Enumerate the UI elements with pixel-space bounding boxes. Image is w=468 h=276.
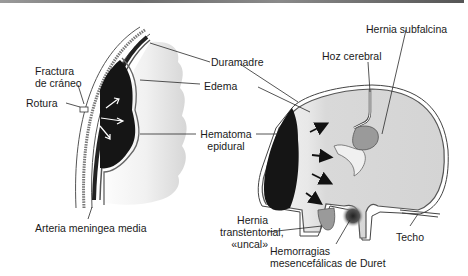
epidural-hematoma-coronal <box>264 108 299 211</box>
label-hemorragias-line1: Hemorragias <box>270 245 386 257</box>
label-hernia-transtentorial: Hernia transtentorial, «uncal» <box>220 214 268 250</box>
label-hematoma-line2: epidural <box>196 140 256 152</box>
label-hernia-trans-line2: transtentorial, <box>220 226 268 238</box>
duret-hemorrhage <box>342 205 364 227</box>
right-panel-coronal-brain <box>258 85 448 240</box>
label-hernia-trans-line3: «uncal» <box>220 238 268 250</box>
label-techo: Techo <box>396 231 424 243</box>
label-duramadre: Duramadre <box>211 56 264 68</box>
label-hematoma-line1: Hematoma <box>196 128 256 140</box>
skull-fracture-mark <box>80 107 88 112</box>
label-hernia-subfalcina: Hernia subfalcina <box>366 23 447 35</box>
label-fractura-line2: de cráneo <box>35 77 82 89</box>
label-fractura-de-craneo: Fractura de cráneo <box>35 65 82 89</box>
label-hematoma-epidural: Hematoma epidural <box>196 128 256 152</box>
label-hernia-trans-line1: Hernia <box>220 214 268 226</box>
label-edema: Edema <box>204 80 237 92</box>
label-rotura: Rotura <box>26 97 58 109</box>
label-fractura-line1: Fractura <box>35 65 82 77</box>
label-hemorragias-duret: Hemorragias mesencefálicas de Duret <box>270 245 386 269</box>
label-hemorragias-line2: mesencefálicas de Duret <box>270 257 386 269</box>
label-arteria-meningea-media: Arteria meningea media <box>35 222 146 234</box>
label-hoz-cerebral: Hoz cerebral <box>322 50 382 62</box>
left-panel-epidural-section <box>76 27 187 208</box>
